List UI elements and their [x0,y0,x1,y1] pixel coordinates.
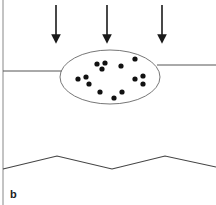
zigzag-line [3,156,216,169]
particle-dot [75,76,80,81]
particle-dot [102,60,107,65]
particle-dot [111,95,116,100]
panel-label: b [10,188,17,200]
particle-dot [132,76,137,81]
particle-dot [140,73,145,78]
particles-group [75,56,145,100]
arrows-group [56,5,162,39]
particle-dot [119,89,124,94]
particle-dot [86,81,91,86]
particle-dot [83,74,88,79]
particle-dot [97,89,102,94]
particle-dot [118,63,123,68]
diagram-canvas [0,0,216,205]
particle-dot [99,66,104,71]
particle-dot [140,81,145,86]
particle-dot [132,56,137,61]
particle-dot [94,61,99,66]
